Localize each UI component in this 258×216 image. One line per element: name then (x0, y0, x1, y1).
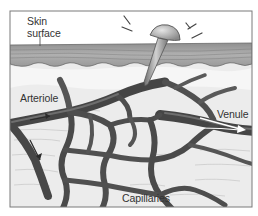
label-skin-surface-line2: surface (27, 27, 61, 39)
label-venule: Venule (217, 108, 249, 120)
label-skin-surface-line1: Skin (27, 15, 61, 27)
label-skin-surface: Skin surface (27, 15, 61, 39)
label-arteriole: Arteriole (20, 92, 58, 104)
label-capillaries: Capillaries (122, 192, 170, 204)
